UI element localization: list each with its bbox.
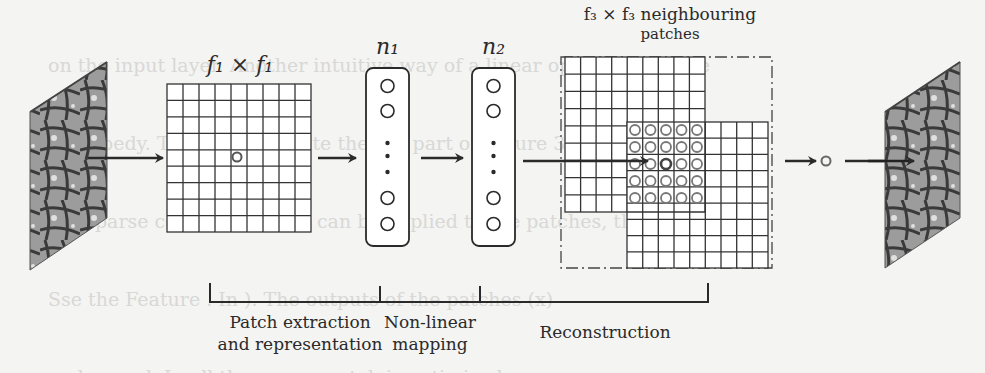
stage-patch-extraction: Patch extraction and representation bbox=[215, 311, 385, 355]
neighbour-label-line1: f₃ × f₃ neighbouring bbox=[570, 4, 770, 24]
filter-grid-f1 bbox=[167, 84, 311, 232]
layer1-size-label: n₁ bbox=[366, 34, 409, 59]
filter-size-label: f₁ × f₁ bbox=[185, 52, 295, 77]
output-pixel-icon bbox=[822, 157, 831, 166]
output-image bbox=[885, 62, 960, 268]
stage-bracket bbox=[210, 283, 708, 302]
patch-grid-lower-right bbox=[627, 122, 768, 268]
stage-line1: Patch extraction bbox=[215, 311, 385, 333]
layer-n1-box bbox=[366, 68, 409, 246]
neighbour-patches-label: f₃ × f₃ neighbouring patches bbox=[570, 4, 770, 44]
stage-reconstruction: Reconstruction bbox=[505, 321, 705, 343]
layer2-size-label: n₂ bbox=[472, 34, 515, 59]
input-image bbox=[30, 62, 107, 270]
neighbour-label-line2: patches bbox=[570, 24, 770, 44]
stage-non-linear-mapping: Non-linear mapping bbox=[380, 311, 480, 355]
stage-line1: Non-linear bbox=[380, 311, 480, 333]
stage-line2: and representation bbox=[215, 333, 385, 355]
layer-n2-box bbox=[472, 68, 515, 246]
stage-line1: Reconstruction bbox=[505, 321, 705, 343]
stage-line2: mapping bbox=[380, 333, 480, 355]
